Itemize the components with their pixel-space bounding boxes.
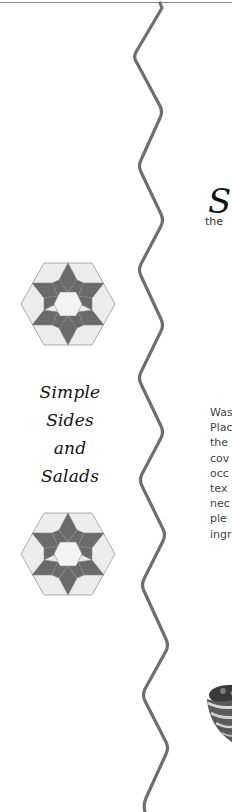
body-line: Plac (210, 420, 232, 435)
section-title-line: Simple (20, 378, 120, 406)
chapter-heading-subtitle: the (205, 216, 223, 228)
body-line: ingr (210, 527, 232, 542)
section-title-line: Salads (20, 462, 120, 490)
body-line: the (210, 435, 232, 450)
body-line: tex (210, 481, 232, 496)
body-line: ple (210, 511, 232, 526)
section-title-line: Sides (20, 406, 120, 434)
body-line: nec (210, 496, 232, 511)
body-line: occ (210, 466, 232, 481)
section-title-line: and (20, 434, 120, 462)
chapter-heading-initial: S (208, 184, 231, 218)
body-paragraph: Was Plac the cov occ tex nec ple ingr (210, 405, 232, 542)
bowl-illustration (203, 683, 232, 753)
body-line: cov (210, 451, 232, 466)
quilt-star-icon (20, 512, 116, 596)
quilt-star-icon (20, 262, 116, 346)
section-title: Simple Sides and Salads (20, 378, 120, 490)
body-line: Was (210, 405, 232, 420)
